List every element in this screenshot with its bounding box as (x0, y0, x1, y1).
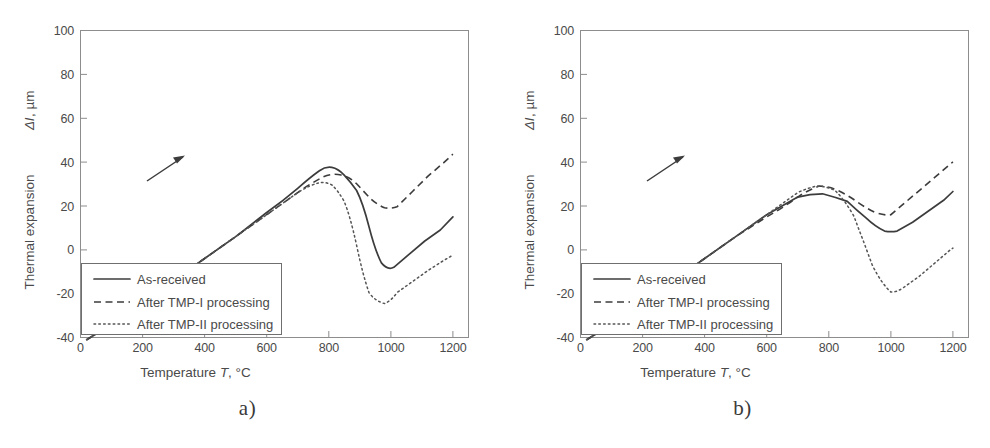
heating-direction-arrow-icon (147, 156, 185, 182)
y-tick-label: 60 (560, 112, 574, 126)
y-tick-label: 100 (554, 24, 575, 38)
heating-direction-arrow-icon (647, 156, 685, 182)
y-tick-label: 80 (560, 68, 574, 82)
y-axis-title-main: Thermal expansion (22, 175, 37, 290)
y-axis-title-unit: , µm (22, 90, 37, 117)
y-tick-label: 0 (67, 243, 74, 257)
x-tick-label: 600 (257, 341, 278, 355)
x-tick-label: 200 (632, 341, 653, 355)
chart-panel-a: 100 80 60 40 20 0 -20 -40 0 200 400 600 … (0, 0, 495, 448)
dilatometry-figure: 100 80 60 40 20 0 -20 -40 0 200 400 600 … (0, 0, 990, 448)
legend-label-after-tmp-2: After TMP-II processing (137, 317, 273, 332)
x-tick-label: 0 (577, 341, 584, 355)
y-tick-label: 100 (54, 24, 75, 38)
x-tick-label: 1200 (939, 341, 966, 355)
x-axis-title: Temperature T , °C (140, 365, 251, 380)
x-axis-title: Temperature T , °C (640, 365, 751, 380)
x-tick-label: 200 (132, 341, 153, 355)
panel-caption-a: a) (0, 396, 495, 421)
chart-panel-b: 100 80 60 40 20 0 -20 -40 0 200 400 600 … (495, 0, 990, 448)
chart-svg-b: 100 80 60 40 20 0 -20 -40 0 200 400 600 … (495, 0, 990, 448)
legend-label-as-received: As-received (637, 272, 706, 287)
legend-label-after-tmp-2: After TMP-II processing (637, 317, 773, 332)
y-tick-label: 0 (567, 243, 574, 257)
y-tick-label: 80 (60, 68, 74, 82)
x-tick-label: 0 (77, 341, 84, 355)
x-tick-label: 400 (194, 341, 215, 355)
y-axis-title-main: Thermal expansion (522, 175, 537, 290)
legend-label-after-tmp-1: After TMP-I processing (137, 295, 270, 310)
x-tick-label: 600 (757, 341, 778, 355)
y-tick-label: 40 (560, 156, 574, 170)
x-axis-title-unit: , °C (728, 365, 751, 380)
legend-label-after-tmp-1: After TMP-I processing (637, 295, 770, 310)
y-tick-label: 60 (60, 112, 74, 126)
panel-caption-b: b) (495, 396, 990, 421)
x-tick-label: 800 (319, 341, 340, 355)
x-axis-title-main: Temperature (140, 365, 216, 380)
x-axis-title-unit: , °C (228, 365, 251, 380)
y-tick-label: -20 (557, 287, 575, 301)
x-axis-title-main: Temperature (640, 365, 716, 380)
x-tick-label: 1000 (377, 341, 404, 355)
y-tick-label: -40 (557, 331, 575, 345)
x-tick-label: 1000 (877, 341, 904, 355)
y-tick-label: -20 (57, 287, 75, 301)
x-tick-label: 400 (694, 341, 715, 355)
y-axis-title-symbol: Δl (522, 117, 537, 131)
y-tick-label: 20 (60, 200, 74, 214)
chart-svg-a: 100 80 60 40 20 0 -20 -40 0 200 400 600 … (0, 0, 495, 448)
y-tick-label: 40 (60, 156, 74, 170)
y-tick-label: -40 (57, 331, 75, 345)
x-tick-label: 1200 (439, 341, 466, 355)
y-tick-label: 20 (560, 200, 574, 214)
x-tick-label: 800 (819, 341, 840, 355)
y-axis-title: Thermal expansion Δl , µm (522, 90, 537, 289)
y-axis-title-unit: , µm (522, 90, 537, 117)
legend: As-received After TMP-I processing After… (82, 264, 282, 335)
y-axis-title: Thermal expansion Δl , µm (22, 90, 37, 289)
legend-label-as-received: As-received (137, 272, 206, 287)
y-axis-title-symbol: Δl (22, 117, 37, 131)
legend: As-received After TMP-I processing After… (582, 264, 782, 335)
